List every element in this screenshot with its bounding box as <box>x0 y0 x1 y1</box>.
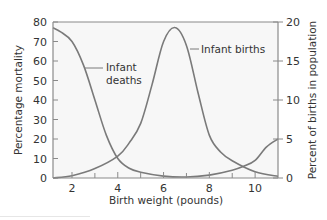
y2-tick-label: 0 <box>286 172 293 185</box>
chart-svg: 0102030405060708005101520246810 Infant d… <box>0 0 327 220</box>
y-tick-label: 60 <box>33 55 47 68</box>
y-tick-label: 20 <box>33 133 47 146</box>
y-tick-label: 40 <box>33 94 47 107</box>
chart-container: 0102030405060708005101520246810 Infant d… <box>0 0 327 220</box>
y2-tick-label: 20 <box>286 16 300 29</box>
deaths-annotation-label-1: Infant <box>106 61 137 73</box>
deaths-annotation-label-2: deaths <box>106 74 142 86</box>
y-tick-label: 10 <box>33 153 47 166</box>
x-tick-label: 2 <box>68 182 75 195</box>
y2-axis-title: Percent of births in population <box>306 21 318 180</box>
y-tick-label: 70 <box>33 36 47 49</box>
y-tick-label: 30 <box>33 114 47 127</box>
x-axis-title: Birth weight (pounds) <box>109 194 223 206</box>
divider <box>0 216 90 217</box>
y-tick-label: 0 <box>40 172 47 185</box>
y2-tick-label: 5 <box>286 133 293 146</box>
y-tick-label: 80 <box>33 16 47 29</box>
y-tick-label: 50 <box>33 75 47 88</box>
y2-tick-label: 15 <box>286 55 300 68</box>
y-axis-title: Percentage mortality <box>12 45 24 155</box>
births-annotation-label: Infant births <box>201 43 265 55</box>
y2-tick-label: 10 <box>286 94 300 107</box>
x-tick-label: 10 <box>248 182 262 195</box>
